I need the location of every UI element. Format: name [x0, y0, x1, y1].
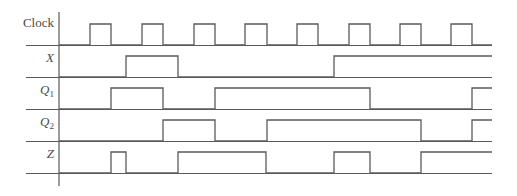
label-x: X	[0, 51, 54, 65]
timing-diagram	[0, 0, 517, 196]
signal-label-q2: Q2	[40, 115, 54, 133]
signal-label-x: X	[46, 51, 54, 65]
waveforms	[59, 24, 492, 173]
signal-label-clock: Clock	[23, 16, 54, 30]
label-clock: Clock	[0, 16, 54, 30]
waveform-z	[59, 152, 492, 173]
label-q1: Q1	[0, 83, 54, 97]
waveform-q2	[59, 120, 492, 141]
waveform-x	[59, 56, 492, 77]
waveform-q1	[59, 88, 492, 109]
label-q2: Q2	[0, 115, 54, 129]
signal-label-q1: Q1	[40, 83, 54, 101]
waveform-clock	[59, 24, 492, 45]
signal-label-z: Z	[47, 147, 54, 161]
label-z: Z	[0, 147, 54, 161]
